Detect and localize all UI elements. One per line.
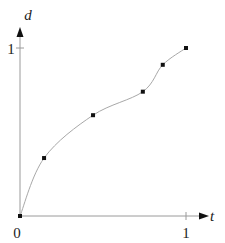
data-point-2 bbox=[91, 113, 95, 117]
x-tick-label-1: 1 bbox=[182, 225, 190, 241]
markers bbox=[18, 46, 188, 218]
data-point-3 bbox=[141, 90, 145, 94]
y-axis-arrow bbox=[17, 27, 24, 37]
y-axis-label: d bbox=[24, 7, 32, 23]
x-axis-arrow bbox=[199, 213, 209, 220]
origin-label: 0 bbox=[13, 225, 21, 241]
data-point-0 bbox=[18, 214, 22, 218]
x-axis-label: t bbox=[210, 208, 215, 224]
series-line bbox=[20, 48, 186, 216]
data-point-1 bbox=[42, 156, 46, 160]
y-tick-label-1: 1 bbox=[7, 41, 15, 57]
data-point-5 bbox=[184, 46, 188, 50]
data-point-4 bbox=[161, 63, 165, 67]
axes bbox=[16, 27, 209, 220]
chart: d t 0 1 1 bbox=[0, 0, 225, 243]
